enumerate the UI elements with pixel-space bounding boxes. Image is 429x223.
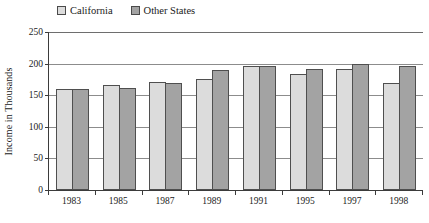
x-tick-label-1997: 1997: [329, 196, 376, 207]
bar-group-1995: [283, 32, 330, 190]
x-tick-mark-origin: [48, 191, 49, 195]
x-tick-label-1998: 1998: [375, 196, 422, 207]
legend-swatch-california-icon: [57, 6, 66, 15]
legend-item-california: California: [57, 5, 113, 16]
bar-other-states-1997[interactable]: [352, 64, 369, 190]
x-axis-labels: 19831985198719891991199519971998: [48, 196, 422, 207]
x-tick-mark-1983: [95, 191, 96, 195]
x-tick-mark-1989: [235, 191, 236, 195]
x-tick-mark-1997: [375, 191, 376, 195]
x-tick-mark-1991: [282, 191, 283, 195]
bar-california-1991[interactable]: [243, 66, 260, 190]
y-tick-label-100: 100: [29, 122, 43, 132]
y-axis-title-text: Income in Thousands: [4, 67, 15, 155]
x-tick-label-1987: 1987: [142, 196, 189, 207]
x-axis-ticks: [48, 191, 422, 195]
bar-california-1987[interactable]: [149, 82, 166, 190]
bar-other-states-1998[interactable]: [399, 66, 416, 191]
x-tick-mark-1995: [329, 191, 330, 195]
y-tick-label-250: 250: [29, 27, 43, 37]
bar-group-1987: [143, 32, 190, 190]
legend-label-california: California: [70, 5, 113, 16]
y-tick-label-200: 200: [29, 59, 43, 69]
bars-layer: [49, 32, 423, 190]
bar-other-states-1989[interactable]: [212, 70, 229, 190]
y-tick-label-0: 0: [38, 185, 43, 195]
plot-area: 050100150200250: [48, 32, 423, 191]
bar-other-states-1991[interactable]: [259, 66, 276, 190]
bar-group-1998: [376, 32, 423, 190]
y-tick-label-150: 150: [29, 90, 43, 100]
x-tick-label-1991: 1991: [235, 196, 282, 207]
bar-group-1983: [49, 32, 96, 190]
bar-california-1995[interactable]: [290, 74, 307, 190]
x-tick-label-1983: 1983: [48, 196, 95, 207]
x-tick-mark-1985: [142, 191, 143, 195]
x-tick-label-1985: 1985: [95, 196, 142, 207]
bar-california-1983[interactable]: [56, 89, 73, 190]
bar-other-states-1995[interactable]: [306, 69, 323, 190]
bar-california-1985[interactable]: [103, 85, 120, 190]
bar-other-states-1983[interactable]: [72, 89, 89, 190]
bar-other-states-1985[interactable]: [119, 88, 136, 190]
bar-group-1997: [330, 32, 377, 190]
x-tick-mark-1998: [422, 191, 423, 195]
bar-california-1989[interactable]: [196, 79, 213, 190]
bar-group-1991: [236, 32, 283, 190]
bar-california-1997[interactable]: [336, 69, 353, 190]
legend-label-other-states: Other States: [144, 5, 196, 16]
chart-legend: California Other States: [57, 3, 195, 17]
y-tick-label-50: 50: [34, 153, 44, 163]
legend-item-other-states: Other States: [131, 5, 196, 16]
x-tick-mark-1987: [188, 191, 189, 195]
y-axis-title: Income in Thousands: [2, 32, 16, 190]
bar-other-states-1987[interactable]: [165, 83, 182, 190]
bar-group-1989: [189, 32, 236, 190]
x-tick-label-1989: 1989: [188, 196, 235, 207]
bar-california-1998[interactable]: [383, 83, 400, 190]
x-tick-label-1995: 1995: [282, 196, 329, 207]
legend-swatch-other-states-icon: [131, 6, 140, 15]
bar-group-1985: [96, 32, 143, 190]
bar-chart: California Other States Income in Thousa…: [0, 0, 429, 223]
